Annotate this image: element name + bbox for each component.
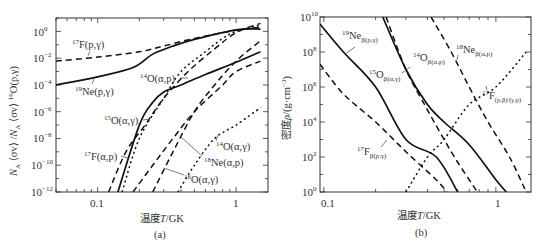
curve-19ne-p- [320,24,458,192]
label-17F-ap: 17F(α,p) [84,150,118,163]
label-17F-pg: 17F(p,γ) [72,38,105,51]
panel-a-ylabel: NA ⟨σv⟩ /NA ⟨σv⟩ 16O(p,γ) [7,66,22,177]
label-16O-ag: 16O(α,γ) [184,173,219,186]
panel-a: 100 10−2 10−4 10−6 10−8 10−10 10−12 0.1 … [7,18,268,241]
label-14O-ag: 14O(α,γ) [216,140,251,153]
svg-text:102: 102 [302,150,317,163]
curve-17f-p-p- [406,52,526,192]
label-15O-ag: 15O(α,γ) [104,114,139,127]
panel-a-xtick-0.1: 0.1 [90,197,104,209]
panel-a-y-tick-labels: 100 10−2 10−4 10−6 10−8 10−10 10−12 [31,25,53,198]
svg-text:10−8: 10−8 [33,131,52,144]
panel-b-ylabel: 密度ρ/(g·cm−3) [280,76,293,141]
panel-b-xtick-0.1: 0.1 [321,197,335,209]
panel-a-caption: (a) [154,229,166,241]
label-18Ne-ap: 18Ne(α,p) [204,156,244,169]
label-14O-ap: 14O(α,p) [140,72,175,85]
panel-b-frame [320,17,531,192]
panel-b-xtick-1: 1 [495,197,501,209]
panel-b: 1010 108 106 104 102 100 0.1 1 温度T/GK (b… [280,10,531,239]
svg-text:100: 100 [302,185,317,198]
label-14O-beta: 14Oβ(α,p) [413,51,445,66]
svg-text:10−6: 10−6 [33,105,52,118]
svg-text:10−12: 10−12 [31,185,53,198]
curve-15o- [383,17,507,192]
label-19Ne-beta: 19Neβ(p,γ) [342,29,378,44]
label-19Ne-pg: 19Ne(p,γ) [75,85,114,98]
panel-b-xlabel: 温度T/GK [397,209,441,221]
svg-text:108: 108 [302,45,317,58]
svg-text:10−2: 10−2 [33,51,52,64]
curve-17f-p- [320,64,447,192]
label-17F-beta: 17Fβ(p,γ) [357,145,387,160]
svg-text:10−10: 10−10 [31,158,53,171]
panel-b-annotations: 19Neβ(p,γ) 15Oβ(α,γ) 14Oβ(α,p) 18Neβ(α,p… [342,29,521,160]
label-17F-pbeta: 17F(p,β)/(γ,p) [482,89,521,104]
svg-text:10−4: 10−4 [33,78,52,91]
panel-a-xlabel: 温度T/GK [140,212,184,224]
figure: 100 10−2 10−4 10−6 10−8 10−10 10−12 0.1 … [0,0,537,243]
svg-text:100: 100 [33,25,48,38]
svg-text:104: 104 [302,115,317,128]
label-15O-beta: 15Oβ(α,γ) [369,68,401,83]
panel-b-curves [320,17,526,192]
curve-18ne-p- [153,41,261,192]
panel-b-caption: (b) [415,227,428,239]
panel-b-ticks [320,17,531,192]
curve-18ne-p- [431,17,526,192]
panel-b-y-tick-labels: 1010 108 106 104 102 100 [300,10,319,198]
label-18Ne-beta: 18Neβ(α,p) [456,43,493,58]
svg-text:1010: 1010 [300,10,319,23]
svg-text:106: 106 [302,80,317,93]
panel-a-annotations: 17F(p,γ) 19Ne(p,γ) 14O(α,p) 15O(α,γ) 17F… [72,38,251,186]
panel-a-xtick-1: 1 [233,197,239,209]
